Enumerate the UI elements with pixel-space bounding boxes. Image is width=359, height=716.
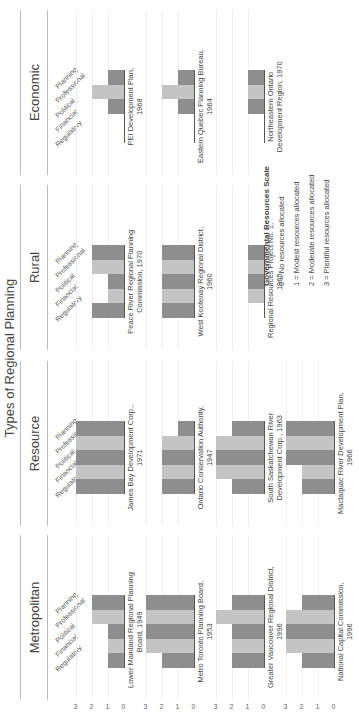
axis-tick: 0 [192,702,196,709]
axis-tick: 3 [214,702,218,709]
section-header: Metropolitan [20,535,48,700]
section-header: Resource [20,361,48,526]
axis-tick: 2 [300,702,304,709]
bar-regulatory [76,480,124,495]
small-multiple-chart: West Kootenay Regional District,1960 [146,246,194,319]
bar-regulatory [232,654,264,669]
small-multiple-chart: Regional Resources Project No. 1,1965 [216,246,264,319]
chart-name-line: West Kootenay Regional District, [196,226,205,339]
chart-name: PEI Development Plan,1968 [126,51,144,164]
chart-name-line: James Bay Development Corp., [126,402,135,515]
small-multiple-chart: National Capital Commission,1996 [286,596,334,669]
bar-financial [248,289,264,304]
chart-name-line: Lower Mainland Regional Planning [126,576,135,689]
chart-name-line: Ontario Conservation Authority, [196,402,205,515]
small-multiple-chart: PEI Development Plan,1968 [76,71,124,144]
bar-professional [286,610,334,625]
bar-regulatory [162,304,194,319]
chart-name-line: 1964 [205,51,214,164]
bar-professional [162,85,194,100]
small-multiple-chart: Eastern Quebec Planning Bureau,1964 [146,71,194,144]
category-labels: RegulatoryFinancialPoliticalProfessional… [50,10,77,175]
bar-financial [232,639,264,654]
chart-name: Lower Mainland Regional PlanningBoard, 1… [126,576,144,689]
chart-name-line: Eastern Quebec Planning Bureau, [196,51,205,164]
bar-professional [248,85,264,100]
bar-planning [232,422,264,437]
axis-tick: 1 [316,702,320,709]
chart-name-line: PEI Development Plan, [126,51,135,164]
bar-political [146,625,194,640]
baseline [264,422,265,495]
bar-professional [76,436,124,451]
axis-tick: 0 [332,702,336,709]
gridline [216,186,217,351]
value-axis: 3210 [146,704,194,714]
gridline [146,186,147,351]
chart-name: Metro Toronto Planning Board,1953 [196,576,214,689]
gridline [216,11,217,176]
legend-item: 0 = No resources allocated [277,166,286,286]
chart-name-line: 1971 [135,402,144,515]
bar-political [108,625,124,640]
baseline [194,246,195,319]
bar-planning [248,71,264,86]
baseline [124,246,125,319]
category-labels: RegulatoryFinancialPoliticalProfessional… [50,535,77,700]
chart-name-line: 1966 [345,402,354,515]
small-multiple-chart: Peace River Regional PlanningCommission,… [76,246,124,319]
category-labels: RegulatoryFinancialPoliticalProfessional… [50,361,77,526]
baseline [124,422,125,495]
bar-professional [92,610,124,625]
bar-professional [162,260,194,275]
chart-name-line: 1996 [275,576,284,689]
bar-professional [162,436,194,451]
bar-regulatory [302,654,334,669]
small-multiple-chart: Greater Vancouver Regional District,1996 [216,596,264,669]
bar-financial [162,465,194,480]
gridline [146,11,147,176]
regional-planning-chart: Types of Regional Planning MetropolitanR… [0,0,359,716]
bar-financial [76,465,124,480]
small-multiple-chart: Metro Toronto Planning Board,1953 [146,596,194,669]
bar-financial [216,465,264,480]
bar-political [216,451,264,466]
bar-regulatory [108,654,124,669]
small-multiple-chart: Northeastern OntarioDevelopment Region, … [216,71,264,144]
baseline [194,596,195,669]
chart-name: Northeastern OntarioDevelopment Region, … [266,51,284,164]
bar-regulatory [162,480,194,495]
category-labels: RegulatoryFinancialPoliticalProfessional… [50,185,77,350]
axis-tick: 1 [106,702,110,709]
chart-name-line: 1953 [205,576,214,689]
axis-tick: 2 [90,702,94,709]
value-axis: 3210 [286,704,334,714]
bar-planning [92,246,124,261]
bar-financial [302,465,334,480]
bar-political [286,625,334,640]
chart-name-line: Metro Toronto Planning Board, [196,576,205,689]
bar-political [232,625,264,640]
baseline [124,596,125,669]
chart-name: Mactaquac River Development Plan,1966 [336,402,354,515]
bar-planning [232,596,264,611]
gridline [76,186,77,351]
bar-professional [146,610,194,625]
gridline [146,362,147,527]
bar-planning [92,596,124,611]
bar-planning [178,71,194,86]
gridline [76,536,77,701]
bar-professional [92,85,124,100]
chart-name: Greater Vancouver Regional District,1996 [266,576,284,689]
chart-title: Types of Regional Planning [2,0,17,716]
chart-name: National Capital Commission,1996 [336,576,354,689]
value-axis: 3210 [216,704,264,714]
legend: Governmental Resources Scale0 = No resou… [262,166,337,286]
bar-regulatory [232,480,264,495]
axis-tick: 2 [160,702,164,709]
axis-tick: 3 [284,702,288,709]
axis-tick: 1 [176,702,180,709]
legend-item: 2 = Moderate resources allocated [307,166,316,286]
chart-name-line: 1947 [205,402,214,515]
bar-professional [286,436,334,451]
